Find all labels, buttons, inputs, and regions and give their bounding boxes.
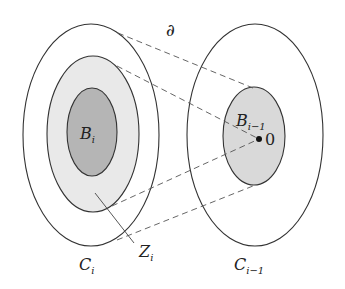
- diagram-canvas: ∂ Bi Bi−1 0 Zi Ci Ci−1: [0, 0, 345, 289]
- boundary-label: ∂: [166, 20, 175, 40]
- diagram-svg: ∂ Bi Bi−1 0 Zi Ci Ci−1: [0, 0, 345, 289]
- label-C-i: Ci: [79, 255, 94, 276]
- label-origin: 0: [265, 130, 275, 149]
- label-Z-i: Zi: [138, 242, 153, 263]
- origin-point: [256, 136, 262, 142]
- left-inner-ellipse-B-i: [67, 88, 117, 176]
- label-C-i-minus-1: Ci−1: [234, 255, 264, 276]
